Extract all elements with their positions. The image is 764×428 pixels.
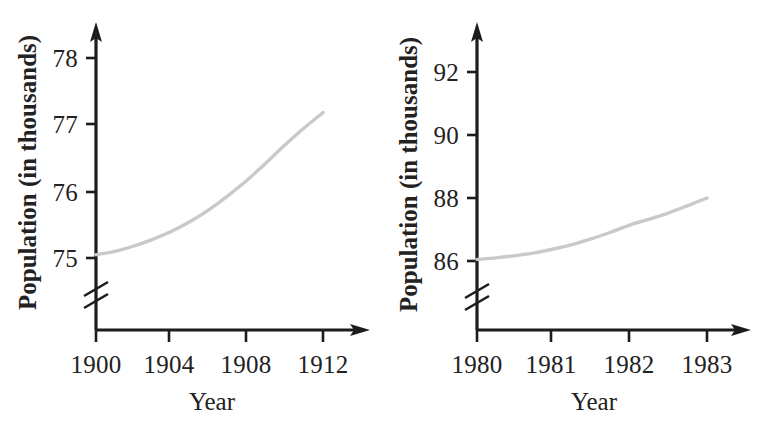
left-ytick-label-77: 77 [40,112,78,137]
left-xtick-label-1904: 1904 [144,352,195,377]
right-ytick-label-92: 92 [421,60,459,85]
left-x-axis-title: Year [189,388,235,416]
right-ytick-label-88: 88 [421,186,459,211]
left-y-axis-title: Population (in thousands) [14,35,42,310]
left-ytick-label-78: 78 [40,46,78,71]
left-ytick-label-75: 75 [40,246,78,271]
right-y-axis-title: Population (in thousands) [395,37,423,312]
chart-panel-right: 92 90 88 86 1980 1981 1982 1983 Year Pop… [382,0,764,428]
right-population-curve [477,198,707,259]
right-xtick-label-1981: 1981 [526,352,577,377]
chart-panel-left: 78 77 76 75 1900 1904 1908 1912 Year Pop… [0,0,382,428]
left-xtick-label-1908: 1908 [221,352,272,377]
left-xtick-label-1900: 1900 [71,352,122,377]
right-xtick-label-1983: 1983 [682,352,733,377]
right-ytick-label-86: 86 [421,249,459,274]
left-xtick-label-1912: 1912 [298,352,349,377]
right-xtick-label-1980: 1980 [452,352,503,377]
right-xtick-label-1982: 1982 [604,352,655,377]
two-panel-line-chart-figure: 78 77 76 75 1900 1904 1908 1912 Year Pop… [0,0,764,428]
right-ytick-label-90: 90 [421,123,459,148]
left-population-curve [96,113,323,255]
left-ytick-label-76: 76 [40,180,78,205]
right-x-axis-title: Year [571,388,617,416]
